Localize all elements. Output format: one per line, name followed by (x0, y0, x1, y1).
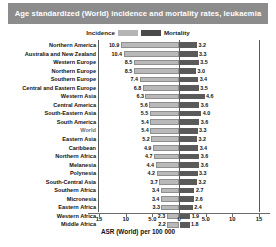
incidence-bar (157, 171, 179, 177)
incidence-bar (150, 128, 179, 134)
bar-row: Polynesia4.23.3 (0, 169, 276, 178)
bar-pair: 3.32.4 (98, 203, 274, 212)
category-label: Polynesia (0, 169, 98, 178)
category-label: Eastern Asia (0, 135, 98, 144)
mortality-value: 3.0 (198, 67, 206, 76)
category-label: South America (0, 118, 98, 127)
bar-pair: 3.73.2 (98, 178, 274, 187)
axis-tick-label: 5.0 (148, 216, 156, 222)
incidence-bar (121, 42, 179, 48)
category-label: South-Eastern Asia (0, 109, 98, 118)
category-label: Northern Africa (0, 152, 98, 161)
mortality-bar (180, 188, 194, 194)
mortality-bar (180, 145, 198, 151)
mortality-bar (180, 196, 194, 202)
bar-row: Northern America10.93.2 (0, 41, 276, 50)
incidence-bar (151, 136, 179, 142)
incidence-value: 4.4 (147, 161, 155, 170)
mortality-value: 2.6 (195, 195, 203, 204)
bar-row: Southern Europe7.43.4 (0, 75, 276, 84)
bar-row-list: Northern America10.93.2Australia and New… (0, 41, 276, 229)
bar-pair: 6.83.5 (98, 84, 274, 93)
incidence-bar (145, 94, 179, 100)
chart-legend: Incidence Mortality (0, 27, 276, 38)
legend-label-mortality: Mortality (164, 29, 190, 36)
mortality-value: 3.4 (200, 75, 208, 84)
legend-label-incidence: Incidence (86, 29, 115, 36)
category-label: Western Europe (0, 58, 98, 67)
incidence-value: 5.6 (140, 101, 148, 110)
incidence-value: 6.8 (134, 84, 142, 93)
incidence-value: 7.4 (131, 75, 139, 84)
incidence-bar (124, 51, 179, 57)
bar-pair: 4.73.6 (98, 152, 274, 161)
bar-row: South-Central Asia3.73.2 (0, 178, 276, 187)
incidence-value: 5.4 (141, 126, 149, 135)
bar-pair: 5.54.0 (98, 109, 274, 118)
category-label: Southern Europe (0, 75, 98, 84)
mortality-value: 2.4 (194, 203, 202, 212)
chart-figure: Age standardized (World) incidence and m… (0, 0, 276, 247)
bar-row: Western Asia6.34.6 (0, 92, 276, 101)
incidence-value: 10.4 (112, 50, 123, 59)
mortality-value: 3.6 (201, 161, 209, 170)
mortality-value: 3.2 (199, 178, 207, 187)
category-label: Northern America (0, 41, 98, 50)
mortality-bar (180, 179, 197, 185)
category-label: Southern Africa (0, 186, 98, 195)
bar-row: Caribbean4.93.4 (0, 144, 276, 153)
bar-pair: 4.43.6 (98, 161, 274, 170)
category-label: World (0, 126, 98, 135)
mortality-bar (180, 136, 197, 142)
mortality-value: 4.6 (206, 92, 214, 101)
bar-pair: 5.43.6 (98, 118, 274, 127)
category-label: Micronesia (0, 195, 98, 204)
mortality-value: 3.3 (199, 50, 207, 59)
category-label: Melanesia (0, 161, 98, 170)
axis-tick-label: 10 (122, 216, 128, 222)
mortality-value: 2.7 (196, 186, 204, 195)
bar-pair: 4.23.3 (98, 169, 274, 178)
mortality-bar (180, 42, 197, 48)
mortality-bar (180, 119, 199, 125)
bar-row: Central and Eastern Europe6.83.5 (0, 84, 276, 93)
category-label: Australia and New Zealand (0, 50, 98, 59)
incidence-value: 5.2 (142, 135, 150, 144)
page-title: Age standardized (World) incidence and m… (15, 9, 261, 18)
mortality-bar (180, 60, 199, 66)
mortality-bar (180, 51, 198, 57)
incidence-value: 4.9 (144, 144, 152, 153)
incidence-value: 3.3 (152, 203, 160, 212)
incidence-bar (161, 188, 179, 194)
incidence-bar (161, 205, 179, 211)
category-label: Central and Eastern Europe (0, 84, 98, 93)
category-label: Northern Europe (0, 67, 98, 76)
incidence-value: 3.4 (152, 195, 160, 204)
mortality-bar (180, 77, 198, 83)
bar-pair: 4.93.4 (98, 144, 274, 153)
mortality-bar (180, 111, 201, 117)
mortality-bar (180, 128, 198, 134)
bar-pair: 7.43.4 (98, 75, 274, 84)
bar-row: Central America5.63.6 (0, 101, 276, 110)
incidence-value: 6.3 (136, 92, 144, 101)
axis-tick-label: 10 (229, 216, 235, 222)
bar-row: Northern Europe8.53.0 (0, 67, 276, 76)
mortality-value: 3.6 (201, 152, 209, 161)
legend-swatch-incidence (118, 30, 138, 36)
mortality-value: 3.5 (200, 58, 208, 67)
mortality-value: 3.3 (199, 126, 207, 135)
x-axis-title: ASR (World) per 100 000 (0, 228, 276, 235)
bar-row: Southern Africa3.42.7 (0, 186, 276, 195)
bar-pair: 10.93.2 (98, 41, 274, 50)
incidence-bar (159, 179, 179, 185)
category-label: Western Asia (0, 92, 98, 101)
mortality-value: 3.4 (200, 144, 208, 153)
bar-pair: 3.42.7 (98, 186, 274, 195)
mortality-bar (180, 154, 199, 160)
axis-tick-label: 15 (256, 216, 262, 222)
bar-row: Australia and New Zealand10.43.3 (0, 50, 276, 59)
incidence-bar (134, 60, 179, 66)
bar-pair: 8.53.0 (98, 67, 274, 76)
mortality-value: 3.6 (201, 118, 209, 127)
